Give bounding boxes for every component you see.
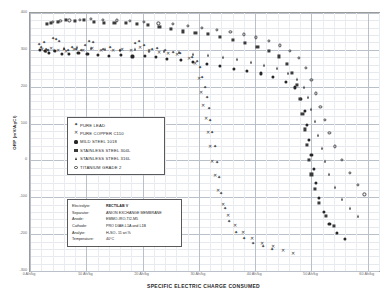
data-point (222, 56, 224, 59)
info-row: Electrolyte:RECTILAB V (72, 203, 177, 210)
data-point (90, 46, 92, 49)
data-point (301, 112, 304, 115)
data-point (293, 86, 296, 89)
data-point (285, 62, 288, 65)
data-point: ✕ (250, 237, 254, 242)
data-point (314, 120, 316, 123)
legend-item-label: TITANIUM GRADE 2 (80, 165, 121, 170)
data-point (147, 23, 150, 26)
info-row-key: Electrolyte: (72, 204, 106, 208)
legend-item: ✕PURE COPPER C110 (72, 129, 160, 137)
data-point (166, 57, 169, 60)
data-point: ✦ (234, 230, 238, 235)
data-point (148, 49, 150, 52)
y-axis-tick-label: 400 (21, 10, 27, 14)
data-point: ✦ (208, 118, 212, 123)
data-point (236, 58, 238, 61)
info-row: Separator:ANION EXCHANGE MEMBRANE (72, 210, 177, 217)
y-axis-tick-label: -100 (19, 194, 27, 198)
gridline-horizontal (30, 35, 379, 36)
data-point (325, 214, 328, 217)
data-point: ✦ (198, 66, 202, 71)
data-point: ✦ (213, 144, 217, 149)
data-point (169, 28, 172, 31)
x-axis-tick-label: 10 Ah/kg (78, 272, 93, 276)
data-point (231, 39, 234, 42)
data-point (215, 28, 218, 31)
data-point (219, 36, 222, 39)
y-axis-tick-label: 0 (25, 157, 27, 161)
data-point (48, 51, 51, 54)
data-point: ✕ (166, 52, 170, 57)
info-row-key: Anode: (72, 217, 106, 221)
data-point: ✦ (42, 41, 46, 46)
data-point (287, 71, 289, 74)
data-point (207, 54, 209, 57)
gridline-vertical (323, 13, 324, 271)
data-point: ✕ (187, 56, 191, 61)
info-row-value: 40°C (106, 237, 114, 241)
legend-item-label: STAINLESS STEEL 304L (80, 148, 130, 153)
chart-root: 4003002001000-100-200-300 ✦✦✦✦✦✦✦✦✦✦✦✦✦✦… (0, 0, 392, 301)
legend-item: ✦PURE LEAD (72, 121, 160, 129)
data-point: ✕ (99, 48, 103, 53)
info-row: Temperature:40°C (72, 236, 177, 243)
data-point (63, 47, 65, 50)
data-point (278, 44, 281, 47)
info-row-value: EMMO-IRO-TI2-M5 (106, 217, 138, 221)
plot-area: ✦✦✦✦✦✦✦✦✦✦✦✦✦✦✦✦✦✦✦✦✦✦✦✦✦✦✦✦✦✦✦✦✦✦✦✦✦✦✦✦… (29, 12, 380, 272)
legend-marker-icon: ✕ (72, 131, 80, 136)
legend-item-label: STAINLESS STEEL 316L (80, 156, 130, 161)
data-point: ✕ (260, 241, 264, 246)
data-point (93, 20, 96, 23)
gridline-vertical (345, 13, 346, 271)
gridline-vertical (188, 13, 189, 271)
data-point (243, 42, 246, 45)
legend-item-label: MILD STEEL 1018 (80, 139, 117, 144)
info-row-key: Separator: (72, 211, 106, 215)
data-point (321, 146, 323, 149)
data-point (259, 72, 262, 75)
data-point: ✕ (204, 117, 208, 122)
legend-marker-icon: ✦ (72, 122, 80, 127)
data-point (68, 19, 71, 22)
data-point (51, 20, 54, 23)
data-point (319, 105, 322, 108)
info-row-value: H₂SO₄ 11 wt.% (106, 231, 131, 235)
data-point (303, 128, 306, 131)
gridline-horizontal (30, 28, 379, 29)
data-point (328, 132, 331, 135)
data-point: ✕ (81, 49, 85, 54)
data-point (308, 158, 311, 161)
legend-marker-icon (72, 166, 80, 169)
data-point: ✕ (291, 252, 295, 257)
info-row-value: PRO DIAE-L1A and L1B (106, 224, 146, 228)
data-point (250, 60, 252, 63)
data-point (86, 53, 89, 56)
data-point: ✕ (201, 103, 205, 108)
data-point (305, 124, 308, 127)
data-point (304, 66, 307, 69)
data-point (291, 71, 294, 74)
data-point (276, 67, 278, 70)
data-point: ✕ (281, 249, 285, 254)
x-axis-tick-label: 40 Ah/kg (247, 272, 262, 276)
data-point: ✦ (133, 41, 137, 46)
data-point (135, 23, 138, 26)
data-point (76, 45, 78, 48)
data-point (182, 30, 185, 33)
data-point (124, 21, 127, 24)
data-point: ✦ (223, 206, 227, 211)
data-point: ✕ (208, 145, 212, 150)
data-point (163, 50, 165, 53)
data-point (332, 224, 335, 227)
legend-item-label: PURE COPPER C110 (80, 131, 124, 136)
data-point (272, 76, 275, 79)
data-point (310, 153, 313, 156)
data-point (158, 25, 161, 28)
data-point: ✕ (199, 91, 203, 96)
info-row-key: Cathode: (72, 224, 106, 228)
data-point (314, 182, 317, 185)
gridline-vertical (30, 13, 31, 271)
y-axis-title: ORP (mV/AgCl) (12, 93, 17, 173)
